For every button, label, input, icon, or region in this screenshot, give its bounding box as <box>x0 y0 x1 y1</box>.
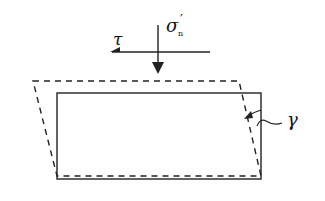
normal-load-arrowhead-icon <box>152 62 164 74</box>
shear-diagram: τ σ ′ n γ <box>0 0 325 201</box>
shear-stress-label: τ <box>113 29 123 49</box>
shear-angle-arrowhead-icon <box>244 111 253 119</box>
shear-strain-label: γ <box>287 109 298 130</box>
normal-stress-prime: ′ <box>180 12 183 27</box>
normal-stress-subscript: n <box>178 29 183 38</box>
deformed-specimen-outline <box>33 81 261 176</box>
original-specimen-rectangle <box>57 93 261 179</box>
